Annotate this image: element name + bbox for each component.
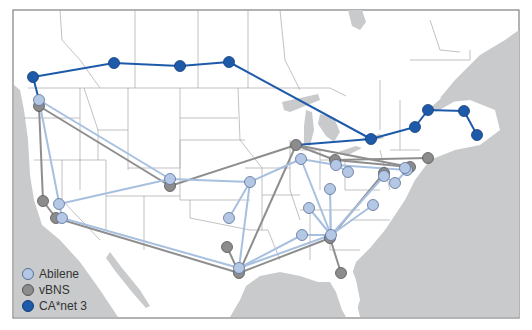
abilene-node [304,203,315,214]
canet-node [109,58,120,69]
canet-node [423,105,434,116]
abilene-node [368,200,379,211]
canet-node [459,106,470,117]
legend-label: Abilene [39,267,79,281]
legend-item-canet: CA*net 3 [22,298,87,314]
vbns-node [291,140,302,151]
vbns-dot-icon [22,284,34,296]
abilene-node [54,199,65,210]
abilene-node [34,95,45,106]
legend-item-abilene: Abilene [22,266,87,282]
canet-node [224,57,235,68]
vbns-node [423,153,434,164]
legend-label: CA*net 3 [39,299,87,313]
abilene-node [224,213,235,224]
abilene-node [245,177,256,188]
vbns-node [222,242,233,253]
abilene-node [165,174,176,185]
abilene-node [234,263,245,274]
abilene-node [331,160,342,171]
canet-node [366,134,377,145]
canet-node [28,72,39,83]
abilene-node [343,167,354,178]
abilene-node [400,163,411,174]
abilene-node [325,184,336,195]
abilene-node [296,154,307,165]
canet-node [175,61,186,72]
legend: Abilene vBNS CA*net 3 [22,266,87,314]
abilene-node [57,213,68,224]
abilene-dot-icon [22,268,34,280]
vbns-node [336,268,347,279]
canet-dot-icon [22,300,34,312]
abilene-node [379,171,390,182]
abilene-node [390,178,401,189]
legend-label: vBNS [39,283,70,297]
abilene-node [326,230,337,241]
canet-node [472,130,483,141]
vbns-node [38,196,49,207]
abilene-node [297,230,308,241]
canet-node [410,122,421,133]
legend-item-vbns: vBNS [22,282,87,298]
abilene-link [330,189,331,235]
